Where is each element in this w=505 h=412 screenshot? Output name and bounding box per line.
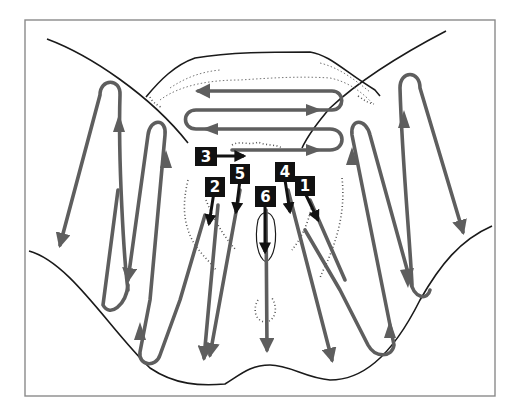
svg-text:3: 3 — [201, 148, 211, 166]
marker-6: 6 — [255, 186, 276, 207]
svg-text:4: 4 — [280, 163, 290, 181]
stroke-direction-diagram: 3 2 5 6 4 1 — [0, 0, 505, 412]
marker-3: 3 — [195, 147, 217, 166]
svg-text:2: 2 — [210, 178, 220, 196]
diagram-frame — [25, 20, 495, 396]
svg-text:6: 6 — [260, 188, 270, 206]
svg-text:1: 1 — [300, 177, 310, 195]
marker-2: 2 — [205, 177, 225, 197]
marker-5: 5 — [230, 164, 250, 184]
marker-1: 1 — [295, 176, 315, 196]
svg-text:5: 5 — [235, 165, 245, 183]
marker-4: 4 — [275, 162, 295, 182]
